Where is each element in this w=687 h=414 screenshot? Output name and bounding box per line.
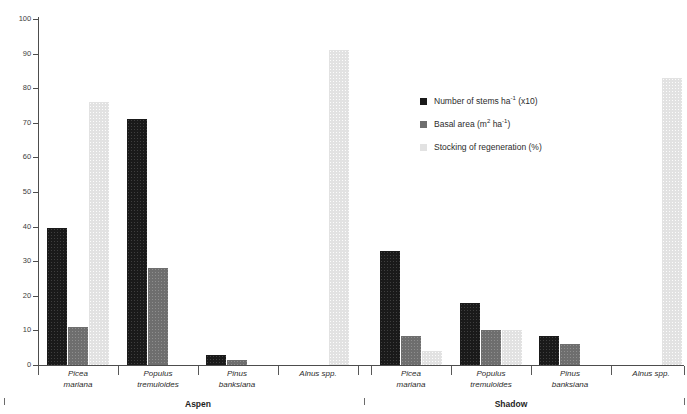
bar	[206, 355, 226, 365]
y-axis-tick-label-wrap: 80	[0, 84, 31, 92]
legend-label-basal-area: Basal area (m2 ha-1)	[434, 119, 510, 130]
y-axis-tick-label: 20	[3, 292, 31, 300]
y-axis-tick-label-wrap: 30	[0, 257, 31, 265]
bar-chart: 1009080706050403020100 PiceamarianaPopul…	[0, 0, 687, 414]
y-axis-tick-label: 70	[3, 119, 31, 127]
y-axis-tick-label-wrap: 60	[0, 153, 31, 161]
bar	[401, 336, 421, 365]
category-label-line: Picea	[366, 369, 456, 380]
bar	[47, 228, 67, 365]
bar	[560, 344, 580, 365]
bar	[227, 360, 247, 365]
y-axis-tick-label: 90	[3, 50, 31, 58]
bar	[127, 119, 147, 365]
y-axis-tick-label-wrap: 90	[0, 50, 31, 58]
bar	[502, 330, 522, 365]
y-axis-tick-label: 40	[3, 223, 31, 231]
category-label: Populustremuloides	[446, 369, 536, 390]
category-separator-tick	[531, 366, 532, 375]
category-separator-tick	[118, 366, 119, 375]
legend-label-stocking: Stocking of regeneration (%)	[434, 142, 542, 153]
category-label-line: mariana	[33, 380, 123, 391]
y-axis-tick-label-wrap: 0	[0, 361, 31, 369]
y-axis-tick-label: 10	[3, 326, 31, 334]
category-label-line: Pinus	[192, 369, 282, 380]
category-label: Pinusbanksiana	[192, 369, 282, 390]
y-axis-tick-label: 80	[3, 84, 31, 92]
category-label-line: Populus	[113, 369, 203, 380]
treatment-group-label: Shadow	[451, 399, 571, 410]
category-label: Populustremuloides	[113, 369, 203, 390]
category-label-line: Picea	[33, 369, 123, 380]
y-axis-tick-label: 0	[3, 361, 31, 369]
category-separator-tick	[451, 366, 452, 375]
treatment-group-separator-tick	[4, 398, 5, 405]
category-label-line: Alnus spp.	[273, 369, 363, 380]
category-label-line: tremuloides	[446, 380, 536, 391]
treatment-group-separator-tick	[364, 398, 365, 405]
y-axis-tick-label-wrap: 70	[0, 119, 31, 127]
bar	[89, 102, 109, 365]
y-axis-tick-label-wrap: 50	[0, 188, 31, 196]
category-label-line: banksiana	[525, 380, 615, 391]
bar	[148, 268, 168, 365]
y-axis-tick-label: 50	[3, 188, 31, 196]
category-label-line: mariana	[366, 380, 456, 391]
category-label: Alnus spp.	[273, 369, 363, 380]
category-separator-tick	[38, 366, 39, 375]
y-axis-tick-label: 30	[3, 257, 31, 265]
treatment-group-separator-tick	[684, 398, 685, 405]
category-label-line: Populus	[446, 369, 536, 380]
legend-swatch-stems-icon	[420, 98, 427, 105]
category-label: Alnus spp.	[606, 369, 687, 380]
bar	[422, 351, 442, 365]
category-separator-tick	[684, 366, 685, 375]
category-separator-tick	[198, 366, 199, 375]
y-axis-tick-label-wrap: 20	[0, 292, 31, 300]
legend-label-stems: Number of stems ha-1 (x10)	[434, 96, 538, 107]
plot-area	[38, 19, 682, 365]
bar	[539, 336, 559, 365]
category-separator-tick	[358, 366, 359, 375]
category-label: Pinusbanksiana	[525, 369, 615, 390]
bar	[460, 303, 480, 365]
legend-swatch-basal-area-icon	[420, 121, 427, 128]
bar	[481, 330, 501, 365]
category-label-line: Pinus	[525, 369, 615, 380]
category-label-line: banksiana	[192, 380, 282, 391]
y-axis-tick-label: 60	[3, 153, 31, 161]
y-axis-tick-label-wrap: 40	[0, 223, 31, 231]
bar	[662, 78, 682, 365]
x-axis-line	[38, 365, 684, 366]
y-axis-tick-label-wrap: 10	[0, 326, 31, 334]
bar	[329, 50, 349, 365]
bar	[380, 251, 400, 365]
bar	[68, 327, 88, 365]
category-separator-tick	[371, 366, 372, 375]
category-label-line: Alnus spp.	[606, 369, 687, 380]
category-label-line: tremuloides	[113, 380, 203, 391]
y-axis-tick-label-wrap: 100	[0, 15, 31, 23]
category-separator-tick	[611, 366, 612, 375]
treatment-group-label: Aspen	[138, 399, 258, 410]
category-separator-tick	[278, 366, 279, 375]
legend-swatch-stocking-icon	[420, 144, 427, 151]
category-label: Piceamariana	[366, 369, 456, 390]
y-axis-tick-label: 100	[3, 15, 31, 23]
category-label: Piceamariana	[33, 369, 123, 390]
